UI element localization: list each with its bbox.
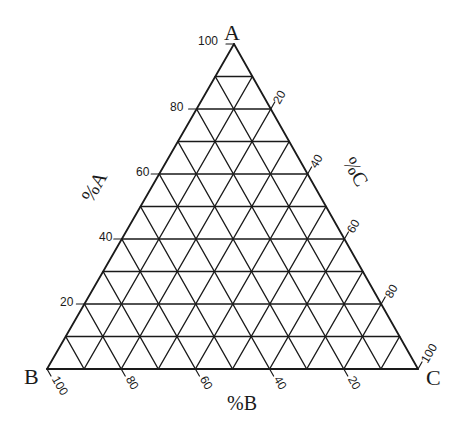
- tick-b: [47, 369, 51, 376]
- axis-title-c: %C: [339, 153, 373, 190]
- tick-label-a-80: 80: [170, 100, 184, 114]
- tick-label-b-100: 100: [49, 374, 71, 399]
- tick-label-c-60-group: 60: [344, 217, 363, 236]
- tick-b: [195, 369, 199, 376]
- axis-title-c-group: %C: [339, 153, 373, 190]
- tick-b: [270, 369, 274, 376]
- grid-line-b: [141, 207, 233, 370]
- tick-c: [344, 232, 348, 239]
- grid-line-b: [178, 142, 307, 370]
- vertex-label-a: A: [224, 20, 240, 45]
- tick-label-c-100-group: 100: [418, 341, 440, 366]
- tick-marks: [47, 44, 422, 376]
- grid-line-c: [381, 337, 400, 370]
- axis-title-a-group: %A: [77, 167, 112, 205]
- tick-label-a-100: 100: [198, 34, 218, 48]
- axis-title-b: %B: [227, 392, 257, 414]
- tick-b: [121, 369, 125, 376]
- grid-line-c: [84, 77, 252, 370]
- tick-c: [381, 297, 385, 304]
- tick-label-c-40: 40: [307, 152, 326, 171]
- tick-label-c-20-group: 20: [270, 88, 289, 107]
- tick-label-c-100: 100: [418, 341, 440, 366]
- tick-label-a-20: 20: [60, 295, 74, 309]
- grid-line-c: [158, 142, 289, 370]
- axis-title-a: %A: [77, 167, 112, 205]
- tick-b: [344, 369, 348, 376]
- tick-label-b-80: 80: [123, 374, 142, 393]
- ternary-diagram: A 100 B C %A %C %B 20 40 60 80 20 40 60 …: [0, 0, 468, 435]
- tick-label-c-40-group: 40: [307, 152, 326, 171]
- tick-label-c-60: 60: [344, 217, 363, 236]
- vertex-label-b: B: [24, 364, 39, 389]
- vertex-label-c: C: [426, 365, 441, 390]
- tick-label-a-60: 60: [136, 165, 150, 179]
- grid-line-c: [233, 207, 327, 370]
- tick-label-c-20: 20: [270, 88, 289, 107]
- grid-line-b: [66, 337, 84, 370]
- tick-label-b-100-group: 100: [49, 374, 71, 399]
- tick-label-a-40: 40: [99, 230, 113, 244]
- tick-label-b-80-group: 80: [123, 374, 142, 393]
- tick-c: [308, 167, 312, 174]
- tick-c: [418, 362, 422, 369]
